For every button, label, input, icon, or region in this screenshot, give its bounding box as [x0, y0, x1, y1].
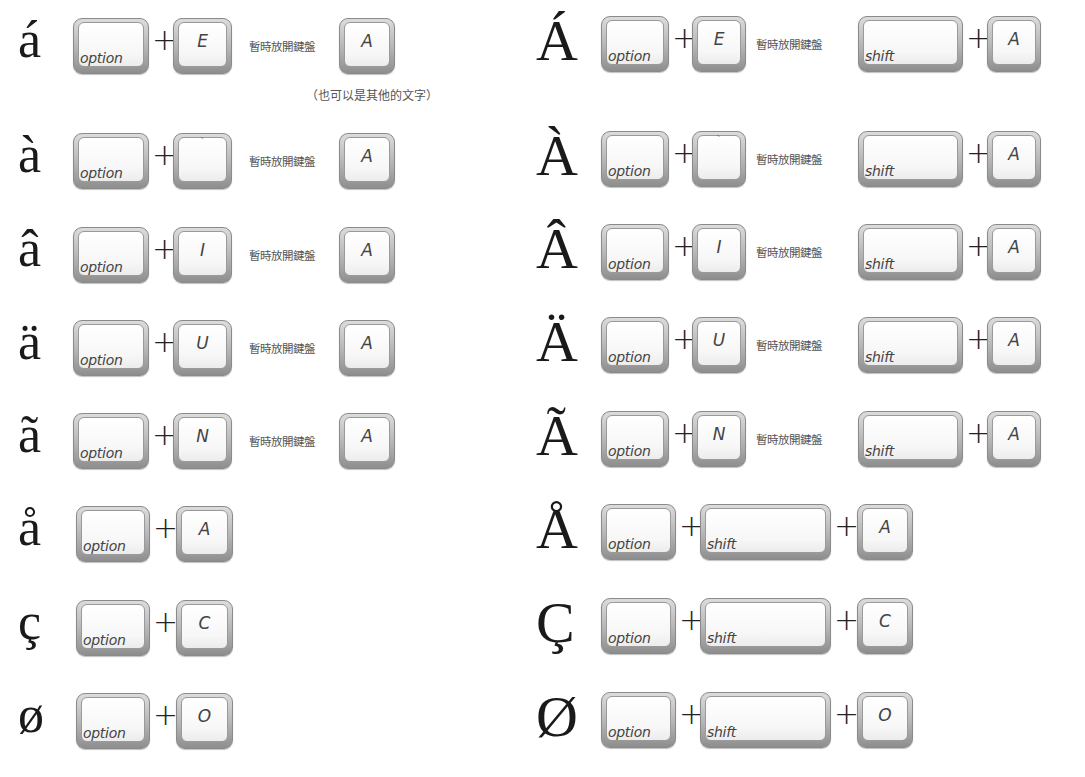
- shift-key: shift: [858, 224, 963, 280]
- result-character: Ä: [536, 313, 578, 371]
- a-key: A: [857, 504, 913, 560]
- plus-sign: +: [834, 605, 859, 635]
- o-key: O: [857, 692, 913, 748]
- a-key: A: [987, 317, 1041, 373]
- shortcut-row-A-tilde: Ã option + N 暫時放開鍵盤 shift + A: [0, 411, 1085, 469]
- shortcut-row-A-grave: À option + ` 暫時放開鍵盤 shift + A: [0, 131, 1085, 189]
- release-keyboard-label: 暫時放開鍵盤: [756, 151, 822, 167]
- shortcut-row-C-cedilla: Ç option + shift + C: [0, 598, 1085, 656]
- a-key: A: [987, 16, 1041, 72]
- shift-key: shift: [858, 317, 963, 373]
- shift-key: shift: [700, 692, 831, 748]
- option-key: option: [601, 692, 676, 748]
- shortcut-row-A-ring: Å option + shift + A: [0, 504, 1085, 562]
- option-key: option: [601, 224, 669, 280]
- shift-key: shift: [858, 411, 963, 467]
- release-keyboard-label: 暫時放開鍵盤: [756, 337, 822, 353]
- e-key: E: [692, 16, 746, 72]
- a-key: A: [987, 131, 1041, 187]
- result-character: Å: [536, 500, 578, 558]
- shortcut-row-A-umlaut: Ä option + U 暫時放開鍵盤 shift + A: [0, 317, 1085, 375]
- option-key: option: [601, 504, 676, 560]
- plus-sign: +: [834, 699, 859, 729]
- shift-key: shift: [858, 16, 963, 72]
- other-letters-note: （也可以是其他的文字）: [306, 86, 438, 103]
- u-key: U: [692, 317, 746, 373]
- a-key: A: [987, 224, 1041, 280]
- shortcut-row-A-circumflex: Â option + I 暫時放開鍵盤 shift + A: [0, 224, 1085, 282]
- option-key: option: [601, 131, 669, 187]
- shortcut-row-A-acute: Á option + E 暫時放開鍵盤 shift + A: [0, 16, 1085, 74]
- release-keyboard-label: 暫時放開鍵盤: [756, 244, 822, 260]
- option-key: option: [601, 598, 676, 654]
- release-keyboard-label: 暫時放開鍵盤: [756, 431, 822, 447]
- result-character: Ã: [536, 407, 578, 465]
- result-character: Ç: [536, 594, 575, 652]
- option-key: option: [601, 411, 669, 467]
- shift-key: shift: [700, 598, 831, 654]
- plus-sign: +: [834, 511, 859, 541]
- release-keyboard-label: 暫時放開鍵盤: [756, 36, 822, 52]
- option-key: option: [601, 317, 669, 373]
- shift-key: shift: [700, 504, 831, 560]
- n-key: N: [692, 411, 746, 467]
- backtick-key: `: [692, 131, 746, 187]
- result-character: À: [536, 127, 578, 185]
- a-key: A: [987, 411, 1041, 467]
- shift-key: shift: [858, 131, 963, 187]
- option-key: option: [601, 16, 669, 72]
- result-character: Â: [536, 220, 578, 278]
- result-character: Ø: [536, 688, 578, 746]
- result-character: Á: [536, 12, 578, 70]
- i-key: I: [692, 224, 746, 280]
- c-key: C: [857, 598, 913, 654]
- shortcut-row-O-slash: Ø option + shift + O: [0, 692, 1085, 750]
